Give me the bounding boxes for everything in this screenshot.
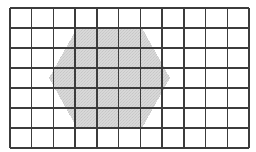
hexagon-grid-figure [0, 0, 256, 152]
figure-canvas [0, 0, 256, 152]
